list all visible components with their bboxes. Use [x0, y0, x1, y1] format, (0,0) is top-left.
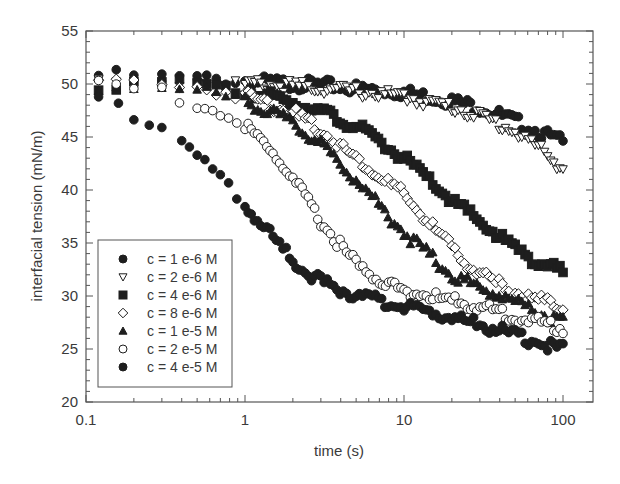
- x-tick-label: 100: [550, 411, 575, 428]
- legend-label: c = 4 e-6 M: [147, 287, 217, 303]
- data-point: [145, 121, 154, 130]
- legend-marker-icon: [119, 363, 127, 371]
- data-point: [175, 99, 184, 108]
- data-point: [559, 339, 568, 348]
- data-point: [559, 137, 568, 146]
- data-point: [543, 346, 552, 355]
- data-point: [201, 155, 210, 164]
- data-point: [329, 110, 338, 119]
- data-point: [130, 84, 139, 93]
- legend-label: c = 4 e-5 M: [147, 359, 217, 375]
- x-axis-title: time (s): [314, 442, 364, 459]
- data-point: [208, 106, 217, 115]
- data-point: [232, 119, 241, 128]
- data-point: [466, 98, 475, 107]
- data-point: [114, 99, 123, 108]
- data-point: [112, 80, 121, 89]
- legend-marker-icon: [119, 255, 127, 263]
- y-tick-label: 35: [61, 234, 78, 251]
- chart: 20253035404550550.1110100 c = 1 e-6 Mc =…: [0, 0, 620, 484]
- data-point: [232, 195, 241, 204]
- data-point: [158, 123, 167, 132]
- data-point: [94, 93, 103, 102]
- data-point: [469, 313, 478, 322]
- legend: c = 1 e-6 Mc = 2 e-6 Mc = 4 e-6 Mc = 8 e…: [98, 240, 232, 387]
- y-tick-label: 40: [61, 181, 78, 198]
- data-point: [559, 268, 568, 277]
- data-point: [498, 304, 507, 313]
- legend-label: c = 1 e-5 M: [147, 323, 217, 339]
- data-point: [282, 243, 291, 252]
- data-point: [112, 65, 121, 74]
- x-tick-label: 1: [241, 411, 249, 428]
- x-tick-label: 0.1: [76, 411, 97, 428]
- data-point: [517, 328, 526, 337]
- data-point: [94, 76, 103, 85]
- data-point: [216, 111, 225, 120]
- y-axis-title: interfacial tension (mN/m): [28, 131, 45, 302]
- data-point: [177, 136, 186, 145]
- y-tick-label: 20: [61, 393, 78, 410]
- data-point: [266, 224, 275, 233]
- x-tick-label: 10: [396, 411, 413, 428]
- data-point: [425, 172, 434, 181]
- legend-label: c = 1 e-6 M: [147, 251, 217, 267]
- data-point: [377, 294, 386, 303]
- data-point: [326, 76, 335, 85]
- data-point: [514, 112, 523, 121]
- data-point: [185, 143, 194, 152]
- data-point: [524, 252, 533, 261]
- y-tick-label: 50: [61, 75, 78, 92]
- data-point: [326, 229, 335, 238]
- data-point: [216, 170, 225, 179]
- y-tick-label: 30: [61, 287, 78, 304]
- data-point: [310, 204, 319, 213]
- data-point: [224, 114, 233, 123]
- data-point: [208, 165, 217, 174]
- legend-label: c = 2 e-5 M: [147, 341, 217, 357]
- data-point: [130, 116, 139, 125]
- legend-marker-icon: [119, 345, 127, 353]
- y-tick-label: 25: [61, 340, 78, 357]
- data-point: [224, 179, 233, 188]
- data-point: [201, 104, 210, 113]
- legend-label: c = 2 e-6 M: [147, 269, 217, 285]
- data-point: [202, 71, 211, 80]
- y-tick-label: 45: [61, 128, 78, 145]
- legend-label: c = 8 e-6 M: [147, 305, 217, 321]
- data-point: [546, 316, 555, 325]
- data-point: [158, 83, 167, 92]
- data-point: [193, 151, 202, 160]
- y-tick-label: 55: [61, 22, 78, 39]
- data-point: [559, 329, 568, 338]
- legend-marker-icon: [119, 291, 127, 299]
